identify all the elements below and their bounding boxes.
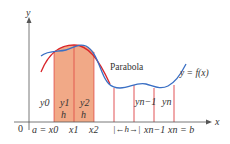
tick-label-xn-b: xn = b: [167, 124, 194, 135]
ordinate-label-yn: yn: [161, 96, 171, 107]
strip-width-label-1: h: [61, 109, 66, 120]
tick-label-x1: x1: [68, 124, 78, 135]
diagram-canvas: y x 0 Parabola y = f(x) y0 y1 y2 yn−1 yn…: [0, 0, 230, 144]
ordinate-label-y1: y1: [59, 97, 69, 108]
simpsons-rule-diagram: y x 0 Parabola y = f(x) y0 y1 y2 yn−1 yn…: [0, 0, 230, 144]
parabola-label: Parabola: [110, 62, 144, 72]
tick-label-x2: x2: [88, 124, 98, 135]
y-axis-label: y: [25, 7, 31, 18]
ordinate-label-y2: y2: [79, 97, 89, 108]
strip-width-label-2: h: [81, 109, 86, 120]
tick-label-h-span: |←h→|: [113, 124, 140, 134]
ordinate-label-y0: y0: [39, 97, 49, 108]
ordinate-label-yn-1: yn−1: [134, 96, 156, 107]
x-axis-label: x: [214, 116, 220, 127]
function-label: y = f(x): [179, 68, 209, 79]
tick-label-xn-1: xn−1: [143, 124, 165, 135]
tick-label-a-x0: a = x0: [32, 124, 58, 135]
x-axis-arrow-icon: [206, 120, 212, 125]
origin-label: 0: [18, 123, 23, 134]
